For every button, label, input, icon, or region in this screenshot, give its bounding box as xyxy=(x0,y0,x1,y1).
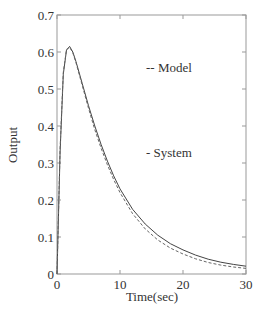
legend-system: - System xyxy=(146,145,192,160)
legend-model: -- Model xyxy=(146,60,192,75)
y-tick-label: 0.4 xyxy=(38,119,55,134)
x-tick-label: 10 xyxy=(114,277,127,292)
x-tick-label: 0 xyxy=(54,277,61,292)
line-chart: 00.10.20.30.40.50.60.7 0102030 -- Model … xyxy=(0,0,258,322)
y-tick-label: 0.5 xyxy=(38,82,54,97)
x-tick-label: 20 xyxy=(177,277,190,292)
y-axis-label: Output xyxy=(5,127,20,164)
y-tick-label: 0.2 xyxy=(38,193,54,208)
x-tick-label: 30 xyxy=(240,277,253,292)
y-tick-label: 0.6 xyxy=(38,45,55,60)
y-axis: 00.10.20.30.40.50.60.7 xyxy=(38,8,246,282)
y-tick-label: 0.3 xyxy=(38,156,54,171)
x-axis-label: Time(sec) xyxy=(126,289,178,304)
series-system-line xyxy=(57,46,246,274)
y-tick-label: 0.1 xyxy=(38,230,54,245)
y-tick-label: 0.7 xyxy=(38,8,55,23)
series-model-line xyxy=(57,47,246,274)
